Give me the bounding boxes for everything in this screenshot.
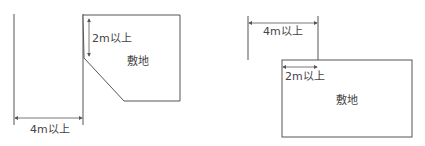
frontage-label: 2m以上 [285,71,325,82]
road-width-label-right: 4m以上 [263,26,303,37]
site-label: 敷地 [127,56,149,67]
left-diagram [14,14,180,125]
road-width-label: 4m以上 [30,124,70,135]
depth-label: 2m以上 [92,33,132,44]
site-label-right: 敷地 [336,95,358,106]
